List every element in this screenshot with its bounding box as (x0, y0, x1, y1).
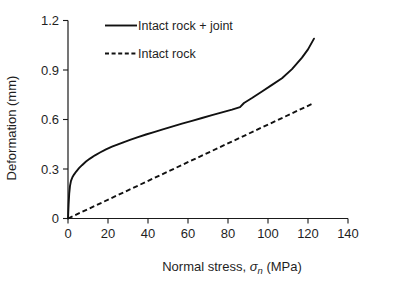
x-tick-label-120: 120 (297, 226, 319, 241)
y-axis: 00.30.60.91.2 (41, 13, 68, 226)
x-tick-label-40: 40 (141, 226, 155, 241)
x-axis-ticks (68, 219, 348, 224)
x-tick-label-100: 100 (257, 226, 279, 241)
y-tick-label-0: 0 (52, 211, 59, 226)
x-axis: 020406080100120140 (64, 219, 358, 241)
legend-label-intact-rock-plus-joint: Intact rock + joint (138, 19, 233, 33)
x-tick-label-80: 80 (221, 226, 235, 241)
x-axis-title-text: Normal stress, σn (MPa) (162, 259, 302, 276)
y-axis-title-text: Deformation (mm) (4, 76, 19, 181)
y-axis-title: Deformation (mm) (4, 76, 19, 181)
chart-figure: 00.30.60.91.2 020406080100120140 Intact … (0, 0, 405, 284)
y-axis-tick-labels: 00.30.60.91.2 (41, 13, 59, 226)
y-tick-label-0.3: 0.3 (41, 162, 59, 177)
x-axis-tick-labels: 020406080100120140 (64, 226, 358, 241)
series-intact-rock-plus-joint (68, 39, 314, 219)
x-tick-label-0: 0 (64, 226, 71, 241)
legend-label-intact-rock: Intact rock (138, 47, 196, 61)
x-tick-label-140: 140 (337, 226, 359, 241)
x-tick-label-60: 60 (181, 226, 195, 241)
y-tick-label-0.6: 0.6 (41, 112, 59, 127)
deformation-vs-normal-stress-chart: 00.30.60.91.2 020406080100120140 Intact … (0, 0, 405, 284)
chart-legend: Intact rock + joint Intact rock (105, 19, 233, 61)
y-tick-label-0.9: 0.9 (41, 63, 59, 78)
plot-series-group (68, 39, 314, 219)
y-tick-label-1.2: 1.2 (41, 13, 59, 28)
y-axis-ticks (63, 21, 68, 219)
x-axis-title: Normal stress, σn (MPa) (162, 259, 302, 276)
x-tick-label-20: 20 (101, 226, 115, 241)
